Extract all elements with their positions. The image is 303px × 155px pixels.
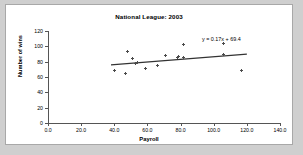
x-tick-mark — [181, 123, 182, 126]
y-tick-label: 80 — [37, 59, 43, 65]
document-page: National League: 2003 y = 0.17x + 69.4 N… — [5, 4, 293, 145]
x-tick-label: 120.0 — [240, 127, 253, 133]
data-point — [124, 72, 127, 75]
y-tick-label: 0 — [40, 120, 43, 126]
plot-area: 020406080100120 0.020.040.060.080.0100.0… — [48, 31, 280, 123]
data-point — [144, 67, 147, 70]
data-point — [240, 69, 243, 72]
x-tick-label: 40.0 — [109, 127, 119, 133]
y-axis-title: Number of wins — [17, 35, 23, 77]
x-tick-mark — [214, 123, 215, 126]
x-tick-mark — [81, 123, 82, 126]
y-tick-label: 20 — [37, 105, 43, 111]
data-point — [222, 42, 225, 45]
x-tick-mark — [280, 123, 281, 126]
x-tick-label: 60.0 — [142, 127, 152, 133]
data-point — [131, 57, 134, 60]
x-axis-line — [48, 123, 280, 124]
x-axis-title: Payroll — [6, 136, 292, 142]
scatter-chart: National League: 2003 y = 0.17x + 69.4 N… — [6, 5, 292, 144]
x-tick-label: 140.0 — [274, 127, 287, 133]
x-tick-mark — [114, 123, 115, 126]
x-tick-mark — [48, 123, 49, 126]
data-point — [126, 50, 129, 53]
data-point — [156, 64, 159, 67]
x-tick-label: 20.0 — [76, 127, 86, 133]
data-point — [164, 54, 167, 57]
x-tick-label: 100.0 — [207, 127, 220, 133]
x-tick-mark — [147, 123, 148, 126]
data-point — [177, 55, 180, 58]
y-tick-label: 100 — [34, 43, 43, 49]
data-point — [136, 61, 139, 64]
data-point — [113, 69, 116, 72]
chart-title: National League: 2003 — [6, 13, 292, 20]
trendline — [48, 31, 280, 123]
data-point — [182, 56, 185, 59]
data-point — [222, 53, 225, 56]
x-tick-label: 0.0 — [44, 127, 51, 133]
page-frame: National League: 2003 y = 0.17x + 69.4 N… — [0, 0, 303, 155]
y-tick-label: 120 — [34, 28, 43, 34]
data-point — [182, 43, 185, 46]
x-tick-mark — [247, 123, 248, 126]
y-tick-label: 40 — [37, 89, 43, 95]
y-tick-label: 60 — [37, 74, 43, 80]
x-tick-label: 80.0 — [176, 127, 186, 133]
